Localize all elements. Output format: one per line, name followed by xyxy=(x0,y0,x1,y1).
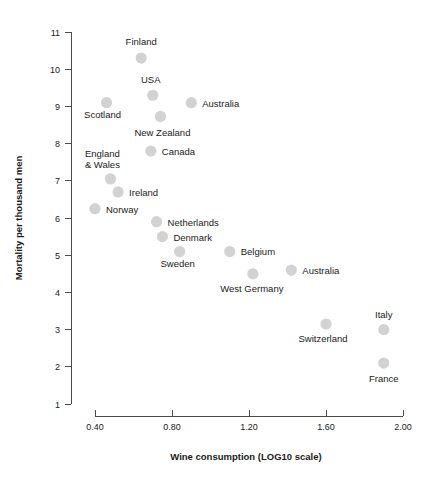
y-tick-label: 4 xyxy=(55,288,60,298)
data-point[interactable] xyxy=(145,145,156,156)
data-point-label: Switzerland xyxy=(298,333,347,344)
data-point-label: Norway xyxy=(106,204,138,215)
data-point[interactable] xyxy=(247,268,258,279)
data-point[interactable] xyxy=(174,246,185,257)
data-point[interactable] xyxy=(105,173,116,184)
x-tick-label: 1.20 xyxy=(240,422,258,432)
y-axis: 1110987654321 xyxy=(50,28,71,410)
data-point-label: West Germany xyxy=(220,283,283,294)
plot-area: 1110987654321 0.400.801.201.602.00 Finla… xyxy=(0,0,431,480)
data-point-label: Netherlands xyxy=(168,217,219,228)
y-tick-label: 1 xyxy=(55,400,60,410)
data-point[interactable] xyxy=(378,357,389,368)
x-axis-title: Wine consumption (LOG10 scale) xyxy=(170,451,321,462)
y-tick-label: 6 xyxy=(55,214,60,224)
data-point[interactable] xyxy=(89,203,100,214)
data-point-label: Finland xyxy=(126,36,157,47)
x-tick-label: 0.80 xyxy=(163,422,181,432)
data-point-label: England& Wales xyxy=(85,148,120,170)
data-point-label: Australia xyxy=(302,265,340,276)
data-point-label: Ireland xyxy=(129,187,158,198)
y-tick-label: 9 xyxy=(55,102,60,112)
data-point-label: Canada xyxy=(162,146,196,157)
y-tick-label: 3 xyxy=(55,325,60,335)
x-axis: 0.400.801.201.602.00 xyxy=(86,410,412,432)
data-point[interactable] xyxy=(378,324,389,335)
data-point[interactable] xyxy=(136,52,147,63)
data-point-label: Australia xyxy=(202,98,240,109)
data-point-label: France xyxy=(369,373,399,384)
data-point-label: USA xyxy=(141,74,161,85)
data-point[interactable] xyxy=(286,264,297,275)
y-tick-label: 10 xyxy=(50,65,60,75)
data-point-label: Denmark xyxy=(173,232,212,243)
data-point[interactable] xyxy=(147,90,158,101)
data-point[interactable] xyxy=(224,246,235,257)
data-point[interactable] xyxy=(155,111,166,122)
data-point-label: New Zealand xyxy=(134,127,190,138)
data-point[interactable] xyxy=(113,186,124,197)
y-axis-title: Mortality per thousand men xyxy=(13,156,24,281)
point-labels-layer: FinlandUSAAustraliaScotlandNew ZealandCa… xyxy=(84,36,398,384)
x-tick-label: 1.60 xyxy=(317,422,335,432)
data-point[interactable] xyxy=(151,216,162,227)
data-point[interactable] xyxy=(101,97,112,108)
x-tick-label: 2.00 xyxy=(394,422,412,432)
y-tick-label: 5 xyxy=(55,251,60,261)
data-point-label: Sweden xyxy=(161,258,195,269)
y-tick-label: 8 xyxy=(55,139,60,149)
y-tick-label: 2 xyxy=(55,362,60,372)
data-point[interactable] xyxy=(186,97,197,108)
wine-mortality-scatter-chart: 1110987654321 0.400.801.201.602.00 Finla… xyxy=(0,0,431,480)
data-point-label: Italy xyxy=(375,309,393,320)
x-tick-label: 0.40 xyxy=(86,422,104,432)
data-point[interactable] xyxy=(320,318,331,329)
data-point-label: Belgium xyxy=(241,246,275,257)
data-point[interactable] xyxy=(157,231,168,242)
data-point-label: Scotland xyxy=(84,109,121,120)
y-tick-label: 7 xyxy=(55,176,60,186)
y-tick-label: 11 xyxy=(51,28,60,38)
